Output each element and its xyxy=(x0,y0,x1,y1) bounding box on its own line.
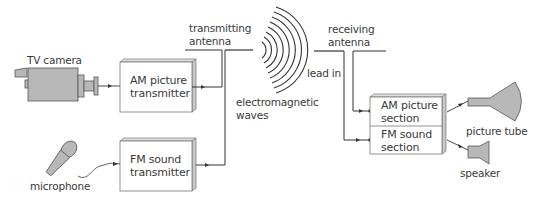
transmitting-antenna-label-line2: antenna xyxy=(189,35,231,47)
receiving-antenna-label-line2: antenna xyxy=(328,36,370,48)
fm-section-line2: section xyxy=(381,141,432,154)
am-transmitter-line1: AM picture xyxy=(130,74,190,87)
lead-in-label: lead in xyxy=(307,67,341,79)
camera-to-am-connector xyxy=(98,84,120,88)
picture-tube-icon xyxy=(468,82,522,121)
picture-tube-label: picture tube xyxy=(466,125,528,137)
tv-camera-label: TV camera xyxy=(27,54,82,66)
receiving-antenna-label-line1: receiving xyxy=(328,23,374,35)
am-section-line2: section xyxy=(381,112,438,125)
fm-section-block: FM sound section xyxy=(381,128,432,154)
electromagnetic-waves-label-line2: waves xyxy=(236,109,268,121)
receiver-output-connectors xyxy=(447,101,468,150)
transmitting-antenna-label-line1: transmitting xyxy=(189,22,251,34)
speaker-label: speaker xyxy=(460,167,500,179)
microphone-label: microphone xyxy=(30,180,90,192)
am-transmitter-line2: transmitter xyxy=(130,87,190,100)
electromagnetic-waves-icon xyxy=(262,7,308,93)
am-transmitter-block: AM picture transmitter xyxy=(130,74,190,100)
speaker-icon xyxy=(468,141,489,164)
fm-transmitter-line1: FM sound xyxy=(130,153,190,166)
am-section-line1: AM picture xyxy=(381,99,438,112)
fm-transmitter-line2: transmitter xyxy=(130,166,190,179)
tv-camera-icon xyxy=(15,68,98,101)
fm-transmitter-block: FM sound transmitter xyxy=(130,153,190,179)
electromagnetic-waves-label-line1: electromagnetic xyxy=(236,96,319,108)
microphone-icon xyxy=(43,138,120,178)
fm-section-line1: FM sound xyxy=(381,128,432,141)
am-section-block: AM picture section xyxy=(381,99,438,125)
